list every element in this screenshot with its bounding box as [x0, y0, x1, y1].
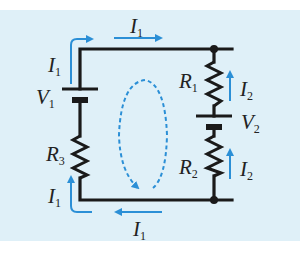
label-r3: R3 [45, 142, 65, 168]
label-r2: R2 [178, 155, 198, 181]
label-i2-lower: I2 [239, 157, 253, 183]
left-wire-bottom [80, 178, 232, 200]
label-r1: R1 [178, 69, 198, 95]
loop-direction-arrow [119, 80, 167, 188]
junction-bottom [210, 196, 218, 204]
label-i1-left-top: I1 [47, 53, 61, 79]
label-i1-left-bottom: I1 [47, 184, 61, 210]
top-wire [80, 49, 232, 89]
resistor-r3 [73, 136, 87, 178]
label-i1-bottom: I1 [132, 217, 146, 243]
battery-v2 [196, 116, 232, 127]
label-i1-top: I1 [129, 14, 143, 40]
label-i2-upper: I2 [239, 77, 253, 103]
label-v2: V2 [241, 110, 260, 136]
junction-top [210, 45, 218, 53]
circuit-diagram: I1 I1 V1 R3 I1 I1 R1 I2 V2 R2 I2 [0, 0, 307, 256]
battery-v1 [62, 89, 98, 100]
label-v1: V1 [36, 85, 55, 111]
resistor-r2 [207, 136, 221, 176]
resistor-r1 [207, 62, 221, 106]
